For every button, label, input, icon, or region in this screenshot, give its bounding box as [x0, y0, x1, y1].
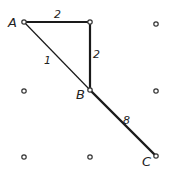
edge-weight-b-c: 8	[123, 114, 130, 127]
node-label-b: B	[76, 87, 85, 102]
edge-weight-a-b: 1	[44, 54, 51, 67]
edge-weight-top-b: 2	[93, 48, 100, 61]
node-middle-right	[154, 89, 158, 93]
node-top-right	[154, 22, 158, 26]
node-middle-left	[22, 89, 26, 93]
node-top-middle	[88, 20, 92, 24]
edge-a-b	[24, 22, 90, 90]
node-b	[88, 88, 92, 92]
node-bottom-middle	[88, 155, 92, 159]
node-label-a: A	[7, 15, 17, 30]
node-a	[22, 20, 26, 24]
node-bottom-left	[22, 155, 26, 159]
node-label-c: C	[142, 154, 152, 169]
node-c	[154, 154, 158, 158]
graph-diagram: A B C 2 2 1 8	[0, 0, 169, 178]
edge-weight-a-top: 2	[54, 8, 61, 21]
